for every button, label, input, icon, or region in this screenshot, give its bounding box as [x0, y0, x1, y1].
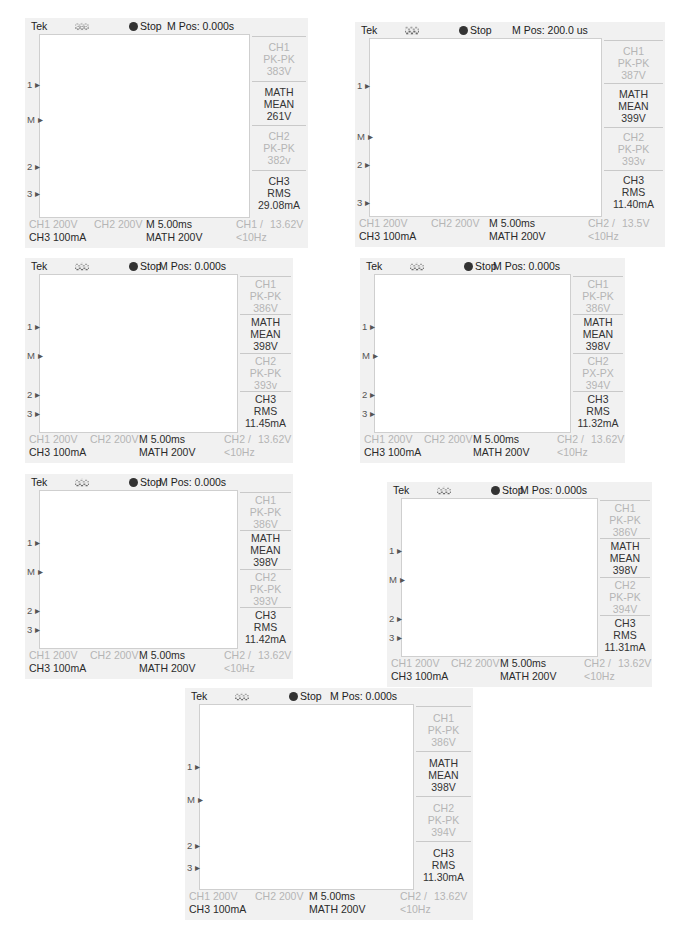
ch1-meas-type: PK-PK [416, 724, 471, 736]
run-state: Stop [491, 484, 524, 496]
ch3-marker: 3 ▸ [187, 862, 200, 873]
math-scale: MATH 200V [309, 903, 365, 916]
math-meas-title: MATH [252, 86, 306, 98]
ch3-meas-title: CH3 [240, 609, 291, 621]
run-state-label: Stop [140, 20, 162, 32]
horizontal-position: M Pos: 0.000s [493, 260, 560, 272]
ch2-meas-type: PX-PX [573, 367, 623, 379]
oscilloscope-panel-3: Tek Stop M Pos: 0.000s 1 ▸ M ▸ 2 ▸ 3 ▸ C… [25, 258, 293, 463]
trigger-level: 13.62V [270, 218, 303, 231]
trigger-source: CH2 / [224, 433, 251, 446]
horizontal-position: M Pos: 0.000s [159, 476, 226, 488]
horizontal-position: M Pos: 0.000s [330, 690, 397, 702]
stop-dot-icon [464, 262, 473, 271]
math-measurement: MATH MEAN 261V [252, 81, 306, 127]
math-scale: MATH 200V [500, 670, 556, 683]
graticule [401, 498, 598, 657]
math-meas-type: MEAN [240, 328, 291, 340]
pulse-edge-icon [405, 25, 419, 37]
ch1-marker: 1 ▸ [357, 80, 370, 91]
stop-dot-icon [129, 22, 138, 31]
math-scale: MATH 200V [139, 662, 195, 675]
timebase: M 5.00ms [489, 217, 535, 230]
measurement-sidebar: CH1 PK-PK 386V MATH MEAN 398V CH2 PK-PK … [240, 492, 291, 645]
ch1-meas-value: 386V [573, 302, 623, 314]
pulse-edge-icon [437, 485, 451, 497]
ch1-meas-type: PK-PK [573, 290, 623, 302]
graticule [39, 274, 238, 433]
math-scale: MATH 200V [146, 231, 202, 244]
ch2-meas-title: CH2 [600, 579, 650, 591]
horizontal-position: M Pos: 200.0 us [512, 24, 588, 36]
ch3-meas-value: 11.45mA [240, 417, 291, 429]
scope-header: Tek Stop M Pos: 200.0 us [355, 22, 665, 38]
graticule [39, 490, 238, 649]
oscilloscope-panel-7: Tek Stop M Pos: 0.000s 1 ▸ M ▸ 2 ▸ 3 ▸ C… [185, 688, 473, 920]
ch1-marker: 1 ▸ [27, 79, 40, 90]
math-meas-value: 398V [600, 564, 650, 576]
ch3-meas-type: RMS [573, 405, 623, 417]
ch3-meas-value: 11.32mA [573, 417, 623, 429]
pulse-edge-icon [75, 477, 89, 489]
brand-label: Tek [31, 260, 47, 272]
ch1-meas-value: 386V [240, 302, 291, 314]
ch2-marker: 2 ▸ [362, 389, 375, 400]
trigger-frequency: <10Hz [236, 231, 267, 244]
ch2-scale: CH2 200V [451, 657, 499, 670]
ch1-scale: CH1 200V [391, 657, 439, 670]
ch1-meas-title: CH1 [240, 278, 291, 290]
ch3-meas-type: RMS [240, 405, 291, 417]
ch3-meas-value: 11.42mA [240, 633, 291, 645]
ch3-scale: CH3 100mA [29, 231, 86, 244]
trigger-frequency: <10Hz [557, 446, 588, 459]
ch2-measurement: CH2 PK-PK 393v [604, 127, 663, 171]
ch3-meas-value: 11.31mA [600, 641, 650, 653]
ch2-marker: 2 ▸ [389, 613, 402, 624]
math-marker: M ▸ [357, 131, 373, 142]
ch3-meas-value: 29.08mA [252, 199, 306, 211]
scope-header: Tek Stop M Pos: 0.000s [360, 258, 625, 274]
graticule [374, 274, 571, 433]
ch3-marker: 3 ▸ [389, 632, 402, 643]
ch1-measurement: CH1 PK-PK 386V [240, 492, 291, 531]
ch1-meas-type: PK-PK [600, 514, 650, 526]
ch3-meas-title: CH3 [604, 174, 663, 186]
horizontal-position: M Pos: 0.000s [520, 484, 587, 496]
trigger-source: CH2 / [584, 657, 611, 670]
ch2-measurement: CH2 PK-PK 393v [240, 353, 291, 392]
stop-dot-icon [289, 692, 298, 701]
trigger-frequency: <10Hz [588, 230, 619, 243]
ch3-marker: 3 ▸ [27, 188, 40, 199]
brand-label: Tek [366, 260, 382, 272]
math-meas-title: MATH [600, 540, 650, 552]
ch1-meas-value: 386V [600, 526, 650, 538]
ch3-marker: 3 ▸ [27, 408, 40, 419]
ch3-meas-type: RMS [252, 187, 306, 199]
ch2-meas-type: PK-PK [252, 142, 306, 154]
run-state-label: Stop [470, 24, 492, 36]
math-meas-title: MATH [240, 316, 291, 328]
math-meas-type: MEAN [600, 552, 650, 564]
ch1-meas-title: CH1 [600, 502, 650, 514]
math-marker: M ▸ [27, 350, 43, 361]
ch3-scale: CH3 100mA [364, 446, 421, 459]
trigger-source: CH2 / [557, 433, 584, 446]
ch2-measurement: CH2 PX-PX 394V [573, 353, 623, 392]
trigger-level: 13.62V [258, 433, 291, 446]
stop-dot-icon [459, 26, 468, 35]
ch3-scale: CH3 100mA [29, 446, 86, 459]
oscilloscope-panel-1: Tek Stop M Pos: 0.000s 1 ▸ M ▸ 2 ▸ 3 ▸ C… [25, 18, 308, 248]
ch2-meas-title: CH2 [604, 131, 663, 143]
trigger-level: 13.5V [622, 217, 649, 230]
timebase: M 5.00ms [139, 649, 185, 662]
math-meas-type: MEAN [604, 100, 663, 112]
ch3-meas-value: 11.40mA [604, 198, 663, 210]
ch1-meas-value: 386V [240, 518, 291, 530]
ch2-meas-type: PK-PK [240, 367, 291, 379]
ch3-marker: 3 ▸ [357, 197, 370, 208]
measurement-sidebar: CH1 PK-PK 387V MATH MEAN 399V CH2 PK-PK … [604, 40, 663, 213]
timebase: M 5.00ms [473, 433, 519, 446]
math-scale: MATH 200V [489, 230, 545, 243]
math-meas-value: 398V [240, 556, 291, 568]
ch3-meas-value: 11.30mA [416, 871, 471, 883]
